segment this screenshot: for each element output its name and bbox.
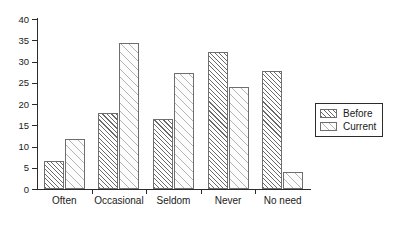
y-axis-tick-label: 40 <box>18 15 29 25</box>
bar-before <box>153 119 173 189</box>
bar-group <box>208 19 249 189</box>
bar-before <box>98 113 118 189</box>
bar-current <box>174 73 194 189</box>
y-axis-tick-label: 25 <box>18 79 29 89</box>
legend-item-before: Before <box>320 108 376 119</box>
bar-group <box>98 19 139 189</box>
x-axis-label-no-need: No need <box>264 196 302 206</box>
legend-swatch-current-icon <box>320 122 337 131</box>
bar-current <box>119 43 139 189</box>
x-axis-line <box>37 189 311 190</box>
bar-current <box>229 87 249 189</box>
chart-legend: Before Current <box>315 103 383 137</box>
y-axis-tick-label: 20 <box>18 100 29 110</box>
y-axis-tick-label: 5 <box>24 164 29 174</box>
x-axis-tick <box>201 189 202 194</box>
bar-current <box>283 172 303 189</box>
legend-swatch-before-icon <box>320 109 337 118</box>
x-axis-tick <box>255 189 256 194</box>
legend-item-current: Current <box>320 121 376 132</box>
legend-label-current: Current <box>343 122 376 132</box>
x-axis-tick <box>146 189 147 194</box>
bar-chart: 0510152025303540 OftenOccasionalSeldomNe… <box>0 0 398 232</box>
x-axis-label-occasional: Occasional <box>94 196 143 206</box>
y-axis-tick: 0 <box>32 189 37 190</box>
y-axis-tick-label: 30 <box>18 57 29 67</box>
x-axis-label-seldom: Seldom <box>157 196 191 206</box>
bar-current <box>65 139 85 189</box>
y-axis-tick-label: 0 <box>24 185 29 195</box>
bar-before <box>208 52 228 189</box>
y-axis-tick-label: 15 <box>18 121 29 131</box>
x-axis-label-often: Often <box>52 196 76 206</box>
bar-before <box>44 161 64 189</box>
bar-group <box>44 19 85 189</box>
legend-label-before: Before <box>343 109 372 119</box>
plot-area <box>37 19 310 189</box>
y-axis-tick-label: 35 <box>18 36 29 46</box>
x-axis-tick <box>92 189 93 194</box>
bar-group <box>262 19 303 189</box>
bar-group <box>153 19 194 189</box>
y-axis-tick-label: 10 <box>18 142 29 152</box>
x-axis-label-never: Never <box>215 196 242 206</box>
bar-before <box>262 71 282 189</box>
